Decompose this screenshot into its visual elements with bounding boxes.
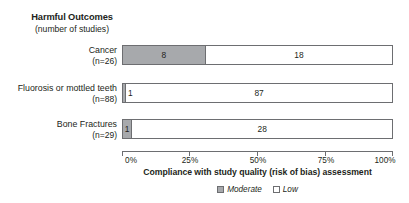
bar-value-low: 18 (294, 51, 303, 59)
bar-value-moderate: 1 (128, 89, 133, 97)
bar-track: 1 28 (122, 119, 393, 139)
legend-label: Moderate (227, 185, 262, 194)
chart-title: Harmful Outcomes (0, 11, 144, 23)
chart-legend: Moderate Low (122, 185, 393, 194)
category-label-bone-fractures: Bone Fractures (n=29) (0, 119, 117, 141)
chart-subtitle: (number of studies) (0, 23, 144, 35)
bar-segment-low[interactable]: 18 (206, 46, 392, 64)
legend-item-moderate[interactable]: Moderate (217, 185, 262, 194)
bar-value-low: 87 (254, 89, 263, 97)
bar-row-fluorosis: 87 1 (122, 83, 393, 103)
category-label-cancer: Cancer (n=26) (0, 45, 117, 67)
bar-value-low: 28 (257, 125, 266, 133)
axis-tick-label-25: 25% (182, 156, 198, 165)
bar-row-cancer: 8 18 (122, 45, 393, 65)
chart-figure: Harmful Outcomes (number of studies) Can… (0, 0, 409, 203)
category-label-fluorosis: Fluorosis or mottled teeth (n=88) (0, 83, 117, 105)
category-count: (n=26) (0, 56, 117, 67)
axis-tick-label-50: 50% (250, 156, 266, 165)
category-name: Bone Fractures (57, 119, 117, 129)
legend-label: Low (283, 185, 298, 194)
plot-area: 8 18 87 1 1 28 (122, 42, 393, 151)
category-count: (n=88) (0, 94, 117, 105)
axis-tick-label-0: 0% (125, 156, 137, 165)
legend-swatch-icon (273, 186, 280, 193)
bar-track: 87 1 (122, 83, 393, 103)
bar-segment-moderate[interactable]: 1 (123, 120, 132, 138)
axis-tick-label-100: 100% (375, 156, 396, 165)
bar-segment-low[interactable]: 28 (132, 120, 392, 138)
bar-value-moderate: 8 (162, 51, 167, 59)
category-name: Fluorosis or mottled teeth (18, 83, 117, 93)
bar-row-bone-fractures: 1 28 (122, 119, 393, 139)
bar-segment-low[interactable]: 87 (126, 84, 392, 102)
category-name: Cancer (89, 45, 117, 55)
bar-value-moderate: 1 (125, 125, 130, 133)
legend-item-low[interactable]: Low (273, 185, 298, 194)
chart-heading: Harmful Outcomes (number of studies) (0, 11, 144, 35)
x-axis-title: Compliance with study quality (risk of b… (122, 167, 393, 177)
axis-tick-label-75: 75% (318, 156, 334, 165)
bar-track: 8 18 (122, 45, 393, 65)
bar-segment-moderate[interactable]: 8 (123, 46, 206, 64)
legend-swatch-icon (217, 186, 224, 193)
axis-tick (122, 152, 123, 156)
category-count: (n=29) (0, 130, 117, 141)
